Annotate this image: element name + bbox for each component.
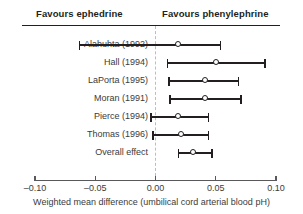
ci-upper-cap	[240, 95, 242, 105]
ci-lower-cap	[150, 113, 152, 123]
study-label: Pierce (1994)	[94, 111, 148, 121]
table-row: LaPorta (1995)	[0, 72, 303, 90]
header-rule	[22, 25, 280, 26]
axis-tick	[95, 176, 96, 181]
point-estimate-marker	[202, 95, 208, 101]
favours-ephedrine-header: Favours ephedrine	[36, 8, 123, 19]
axis-tick-label: 0.10	[267, 183, 285, 193]
ci-lower-cap	[169, 95, 171, 105]
table-row: Pierce (1994)	[0, 108, 303, 126]
axis-tick-label: 0.00	[147, 183, 165, 193]
axis-tick-label: 0.05	[207, 183, 225, 193]
axis-tick-label: –0.05	[84, 183, 107, 193]
axis-tick	[275, 176, 276, 181]
ci-lower-cap	[152, 131, 154, 141]
ci-lower-cap	[79, 41, 81, 51]
table-row: Thomas (1996)	[0, 126, 303, 144]
ci-upper-cap	[208, 113, 210, 123]
point-estimate-marker	[213, 59, 219, 65]
ci-upper-cap	[238, 77, 240, 87]
study-label: Hall (1994)	[104, 57, 148, 67]
ci-lower-cap	[168, 77, 170, 87]
study-label: LaPorta (1995)	[88, 75, 148, 85]
point-estimate-marker	[190, 149, 196, 155]
table-row: Hall (1994)	[0, 54, 303, 72]
ci-upper-cap	[220, 41, 222, 51]
point-estimate-marker	[175, 113, 181, 119]
point-estimate-marker	[202, 77, 208, 83]
study-label: Overall effect	[95, 147, 148, 157]
study-label: Moran (1991)	[94, 93, 148, 103]
point-estimate-marker	[175, 41, 181, 47]
confidence-interval-bar	[80, 44, 221, 46]
axis-tick-label: –0.10	[24, 183, 47, 193]
ci-upper-cap	[264, 59, 266, 69]
axis-tick	[155, 176, 156, 181]
point-estimate-marker	[178, 131, 184, 137]
ci-lower-cap	[178, 149, 180, 159]
ci-lower-cap	[167, 59, 169, 69]
table-row: Alahuhta (1992)	[0, 36, 303, 54]
ci-upper-cap	[208, 131, 210, 141]
table-row: Moran (1991)	[0, 90, 303, 108]
ci-upper-cap	[211, 149, 213, 159]
x-axis-caption: Weighted mean difference (umbilical cord…	[0, 197, 303, 207]
forest-plot: Favours ephedrine Favours phenylephrine …	[0, 0, 303, 214]
axis-tick	[34, 176, 35, 181]
study-label: Thomas (1996)	[87, 129, 148, 139]
table-row: Overall effect	[0, 144, 303, 162]
favours-phenylephrine-header: Favours phenylephrine	[162, 8, 269, 19]
axis-tick	[215, 176, 216, 181]
